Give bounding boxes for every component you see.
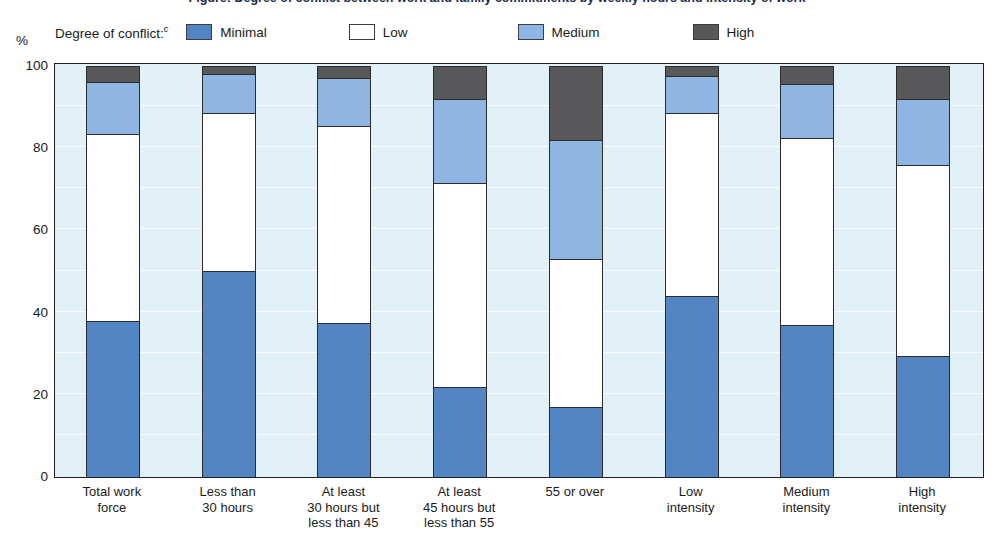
y-axis-tick-label: 80: [4, 140, 48, 155]
x-axis-label-line: less than 55: [401, 515, 517, 531]
x-axis-label-line: intensity: [864, 500, 980, 516]
y-axis-tick-label: 40: [4, 304, 48, 319]
bar-segment-low: [781, 138, 833, 325]
x-axis-label-line: intensity: [633, 500, 749, 516]
x-axis-label-line: 45 hours but: [401, 500, 517, 516]
bar-segment-high: [203, 66, 255, 74]
bar-segment-minimal: [781, 325, 833, 477]
bar-segment-medium: [87, 82, 139, 133]
bar-segment-minimal: [666, 296, 718, 477]
plot-band-line: [55, 228, 983, 229]
bar-segment-high: [434, 66, 486, 99]
x-axis-label-line: less than 45: [286, 515, 402, 531]
y-axis-tick-label: 60: [4, 222, 48, 237]
y-axis-unit-label: %: [16, 33, 28, 48]
chart-legend: Degree of conflict:c Minimal Low Medium …: [55, 12, 960, 52]
bar-55-or-over: [549, 66, 603, 477]
legend-item-high: High: [693, 24, 755, 40]
plot-band-line: [55, 352, 983, 353]
bar-low-intensity: [665, 66, 719, 477]
bar-segment-medium: [318, 78, 370, 125]
x-axis-label-line: Less than: [170, 484, 286, 500]
x-axis-label-at-least-45-hours-but-less-than-55: At least45 hours butless than 55: [401, 484, 517, 531]
bar-segment-medium: [781, 84, 833, 137]
legend-swatch-medium-icon: [518, 24, 544, 40]
bar-segment-minimal: [550, 407, 602, 477]
x-axis-label-line: Medium: [749, 484, 865, 500]
legend-title-superscript: c: [164, 24, 169, 34]
chart-figure: Figure: Degree of conflict between work …: [0, 0, 994, 546]
plot-band-line: [55, 270, 983, 271]
figure-title-text: Figure: Degree of conflict between work …: [0, 0, 994, 5]
plot-band-line: [55, 311, 983, 312]
x-axis-label-line: Total work: [54, 484, 170, 500]
bar-total-work-force: [86, 66, 140, 477]
x-axis-label-line: 30 hours: [170, 500, 286, 516]
x-axis-label-total-work-force: Total workforce: [54, 484, 170, 515]
legend-swatch-minimal-icon: [186, 24, 212, 40]
bar-segment-low: [897, 165, 949, 356]
bar-segment-high: [550, 66, 602, 140]
bar-segment-minimal: [203, 271, 255, 477]
legend-item-minimal: Minimal: [186, 24, 267, 40]
plot-area: [54, 63, 984, 478]
legend-label-low: Low: [383, 25, 408, 40]
bar-segment-medium: [666, 76, 718, 113]
bar-segment-minimal: [318, 323, 370, 477]
bar-segment-medium: [434, 99, 486, 183]
legend-title: Degree of conflict:c: [55, 24, 168, 41]
legend-label-medium: Medium: [552, 25, 600, 40]
y-axis: 020406080100: [0, 63, 48, 478]
bar-at-least-30-hours-but-less-than-45: [317, 66, 371, 477]
figure-title-clipped: Figure: Degree of conflict between work …: [0, 0, 994, 9]
bar-medium-intensity: [780, 66, 834, 477]
x-axis-label-55-or-over: 55 or over: [517, 484, 633, 500]
bar-segment-high: [318, 66, 370, 78]
bar-less-than-30-hours: [202, 66, 256, 477]
bar-segment-low: [203, 113, 255, 271]
x-axis-label-line: 30 hours but: [286, 500, 402, 516]
plot-band-line: [55, 146, 983, 147]
legend-title-text: Degree of conflict:: [55, 25, 164, 40]
y-axis-tick-label: 100: [4, 58, 48, 73]
x-axis-label-line: At least: [286, 484, 402, 500]
x-axis-label-line: intensity: [749, 500, 865, 516]
bar-segment-low: [550, 259, 602, 407]
bar-segment-minimal: [87, 321, 139, 477]
bar-segment-low: [434, 183, 486, 386]
legend-swatch-high-icon: [693, 24, 719, 40]
bar-segment-low: [666, 113, 718, 296]
legend-label-minimal: Minimal: [220, 25, 267, 40]
x-axis-label-at-least-30-hours-but-less-than-45: At least30 hours butless than 45: [286, 484, 402, 531]
bar-segment-high: [666, 66, 718, 76]
bar-segment-minimal: [897, 356, 949, 477]
bar-segment-medium: [897, 99, 949, 165]
bar-segment-high: [781, 66, 833, 84]
bar-segment-high: [897, 66, 949, 99]
bar-segment-medium: [203, 74, 255, 113]
bar-segment-low: [318, 126, 370, 323]
legend-item-low: Low: [349, 24, 408, 40]
x-axis-label-line: force: [54, 500, 170, 516]
x-axis-label-medium-intensity: Mediumintensity: [749, 484, 865, 515]
x-axis-label-line: High: [864, 484, 980, 500]
x-axis-labels: Total workforceLess than30 hoursAt least…: [54, 484, 984, 546]
bar-segment-minimal: [434, 387, 486, 477]
plot-band-line: [55, 187, 983, 188]
legend-item-medium: Medium: [518, 24, 600, 40]
plot-band-line: [55, 393, 983, 394]
bar-segment-medium: [550, 140, 602, 259]
y-axis-tick-label: 20: [4, 386, 48, 401]
legend-label-high: High: [727, 25, 755, 40]
bar-segment-low: [87, 134, 139, 321]
x-axis-label-less-than-30-hours: Less than30 hours: [170, 484, 286, 515]
bar-at-least-45-hours-but-less-than-55: [433, 66, 487, 477]
bar-segment-high: [87, 66, 139, 82]
y-axis-tick-label: 0: [4, 469, 48, 484]
x-axis-label-high-intensity: Highintensity: [864, 484, 980, 515]
x-axis-label-line: 55 or over: [517, 484, 633, 500]
legend-swatch-low-icon: [349, 24, 375, 40]
bar-high-intensity: [896, 66, 950, 477]
x-axis-label-line: Low: [633, 484, 749, 500]
plot-band-line: [55, 105, 983, 106]
